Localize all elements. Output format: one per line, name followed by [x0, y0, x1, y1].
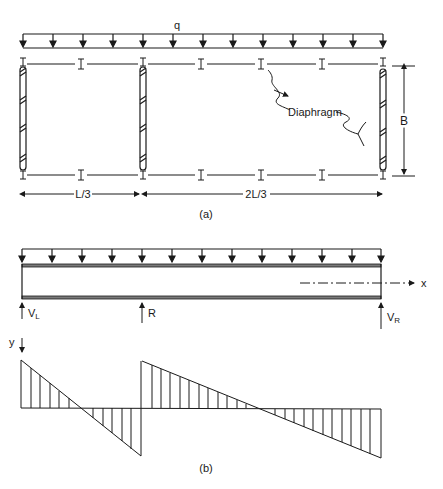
diaphragm-middle — [140, 67, 146, 170]
reaction-label-vl: VL — [28, 307, 40, 321]
load-arrows-a — [20, 34, 386, 47]
part-a-labels: q Diaphragm B L/3 2L/3 (a) — [75, 19, 408, 220]
part-b-labels: x VL R VR y (b) — [9, 277, 427, 474]
diaphragm-right — [380, 69, 386, 170]
top-girder-line — [20, 58, 386, 69]
bottom-girder-line — [20, 170, 386, 180]
y-axis-label: y — [9, 336, 15, 348]
shear-force-diagram — [21, 338, 381, 458]
caption-a: (a) — [199, 208, 212, 220]
reaction-label-r: R — [148, 307, 156, 319]
part-a-plan-view — [20, 34, 415, 194]
x-axis-label: x — [421, 277, 427, 289]
load-label-q: q — [174, 19, 180, 31]
caption-b: (b) — [199, 462, 212, 474]
diaphragm-label: Diaphragm — [288, 106, 342, 118]
distributed-load-b — [19, 249, 384, 262]
diaphragm-left — [20, 67, 26, 170]
beam-diaphragm-figure: q Diaphragm B L/3 2L/3 (a) — [0, 0, 443, 489]
part-b-beam — [19, 249, 414, 329]
beam-body — [22, 264, 381, 299]
support-reactions — [22, 303, 381, 329]
width-label-b: B — [400, 114, 408, 128]
distributed-load-a — [20, 34, 386, 48]
span-label-left: L/3 — [75, 188, 90, 200]
reaction-label-vr: VR — [387, 311, 400, 325]
span-label-right: 2L/3 — [245, 188, 266, 200]
